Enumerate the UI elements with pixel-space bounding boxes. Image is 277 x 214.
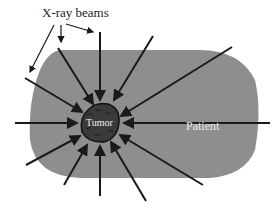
- tumor-label: Tumor: [86, 117, 113, 128]
- patient-body: [30, 50, 259, 178]
- radiotherapy-diagram: [0, 0, 277, 214]
- patient-label: Patient: [186, 119, 219, 134]
- x-ray-beams-label: X-ray beams: [42, 5, 109, 21]
